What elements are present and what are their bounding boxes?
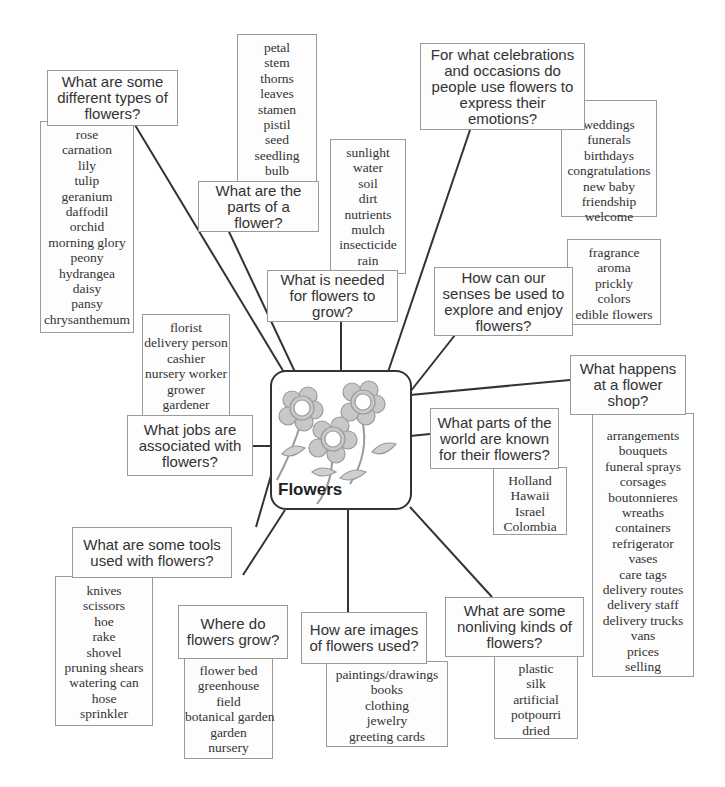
list-item: water: [331, 160, 405, 175]
jobs-answer-list: florist delivery person cashier nursery …: [142, 314, 230, 418]
types-answer-list: rose carnation lily tulip geranium daffo…: [40, 121, 134, 333]
list-item: delivery staff: [593, 597, 693, 612]
list-item: friendship: [562, 194, 656, 209]
parts-question-box: What are the parts of a flower?: [198, 181, 319, 232]
list-item: aroma: [568, 260, 660, 275]
celebrations-question-box: For what celebrations and occasions do p…: [420, 43, 585, 130]
list-item: vans: [593, 628, 693, 643]
list-item: seedling: [238, 148, 316, 163]
images-question-box: How are images of flowers used?: [301, 612, 427, 664]
list-item: silk: [495, 676, 577, 691]
list-item: artificial: [495, 692, 577, 707]
list-item: greeting cards: [327, 729, 447, 744]
list-item: rose: [41, 127, 133, 142]
nonliving-question: What are some nonliving kinds of flowers…: [452, 603, 577, 651]
list-item: field: [185, 694, 272, 709]
shop-answer-list: arrangements bouquets funeral sprays cor…: [592, 413, 694, 677]
list-item: delivery routes: [593, 582, 693, 597]
shop-question-box: What happens at a flower shop?: [570, 355, 686, 415]
list-item: cashier: [143, 351, 229, 366]
senses-question: How can our senses be used to explore an…: [441, 270, 566, 334]
list-item: leaves: [238, 86, 316, 101]
list-item: plastic: [495, 661, 577, 676]
list-item: pistil: [238, 117, 316, 132]
list-item: vases: [593, 551, 693, 566]
list-item: florist: [143, 320, 229, 335]
list-item: hose: [56, 691, 152, 706]
celebrations-question: For what celebrations and occasions do p…: [427, 47, 578, 127]
list-item: flower bed: [185, 663, 272, 678]
central-topic-box: Flowers: [270, 370, 412, 510]
where-question-box: Where do flowers grow?: [178, 605, 288, 659]
list-item: welcome: [562, 209, 656, 224]
list-item: prices: [593, 644, 693, 659]
list-item: birthdays: [562, 148, 656, 163]
list-item: care tags: [593, 567, 693, 582]
parts-question: What are the parts of a flower?: [205, 183, 312, 231]
types-question-box: What are some different types of flowers…: [47, 70, 178, 126]
images-question: How are images of flowers used?: [308, 622, 420, 654]
list-item: stem: [238, 55, 316, 70]
list-item: prickly: [568, 276, 660, 291]
list-item: dried: [495, 723, 577, 738]
list-item: pansy: [41, 296, 133, 311]
world-answer-list: Holland Hawaii Israel Colombia: [493, 467, 567, 535]
list-item: botanical garden: [185, 709, 272, 724]
list-item: carnation: [41, 142, 133, 157]
needs-answer-list: sunlight water soil dirt nutrients mulch…: [330, 139, 406, 274]
concept-web: rose carnation lily tulip geranium daffo…: [0, 0, 725, 787]
tools-question: What are some tools used with flowers?: [79, 537, 225, 569]
list-item: morning glory: [41, 235, 133, 250]
list-item: grower: [143, 382, 229, 397]
nonliving-question-box: What are some nonliving kinds of flowers…: [445, 597, 584, 657]
list-item: selling: [593, 659, 693, 674]
list-item: orchid: [41, 219, 133, 234]
list-item: tulip: [41, 173, 133, 188]
list-item: edible flowers: [568, 307, 660, 322]
list-item: dirt: [331, 191, 405, 206]
list-item: fragrance: [568, 245, 660, 260]
list-item: corsages: [593, 474, 693, 489]
shop-question: What happens at a flower shop?: [577, 361, 679, 409]
jobs-question-box: What jobs are associated with flowers?: [127, 415, 253, 476]
list-item: knives: [56, 583, 152, 598]
nonliving-answer-list: plastic silk artificial potpourri dried: [494, 655, 578, 739]
list-item: jewelry: [327, 713, 447, 728]
list-item: mulch: [331, 222, 405, 237]
list-item: Hawaii: [494, 488, 566, 503]
list-item: funeral sprays: [593, 459, 693, 474]
list-item: sprinkler: [56, 706, 152, 721]
list-item: gardener: [143, 397, 229, 412]
list-item: peony: [41, 250, 133, 265]
list-item: colors: [568, 291, 660, 306]
list-item: funerals: [562, 132, 656, 147]
jobs-question: What jobs are associated with flowers?: [134, 422, 246, 470]
list-item: Colombia: [494, 519, 566, 534]
list-item: refrigerator: [593, 536, 693, 551]
list-item: scissors: [56, 598, 152, 613]
world-question: What parts of the world are known for th…: [437, 415, 552, 463]
where-question: Where do flowers grow?: [185, 616, 281, 648]
list-item: delivery person: [143, 335, 229, 350]
list-item: clothing: [327, 698, 447, 713]
list-item: Israel: [494, 504, 566, 519]
list-item: paintings/drawings: [327, 667, 447, 682]
list-item: containers: [593, 520, 693, 535]
senses-answer-list: fragrance aroma prickly colors edible fl…: [567, 239, 661, 325]
list-item: wreaths: [593, 505, 693, 520]
list-item: geranium: [41, 189, 133, 204]
parts-answer-list: petal stem thorns leaves stamen pistil s…: [237, 34, 317, 184]
list-item: delivery trucks: [593, 613, 693, 628]
list-item: rake: [56, 629, 152, 644]
list-item: hydrangea: [41, 266, 133, 281]
list-item: garden: [185, 725, 272, 740]
list-item: thorns: [238, 71, 316, 86]
central-topic-title: Flowers: [278, 480, 342, 500]
list-item: greenhouse: [185, 678, 272, 693]
senses-question-box: How can our senses be used to explore an…: [434, 267, 573, 336]
list-item: books: [327, 682, 447, 697]
list-item: hoe: [56, 614, 152, 629]
list-item: bouquets: [593, 443, 693, 458]
needs-question: What is needed for flowers to grow?: [274, 272, 391, 320]
list-item: boutonnieres: [593, 490, 693, 505]
